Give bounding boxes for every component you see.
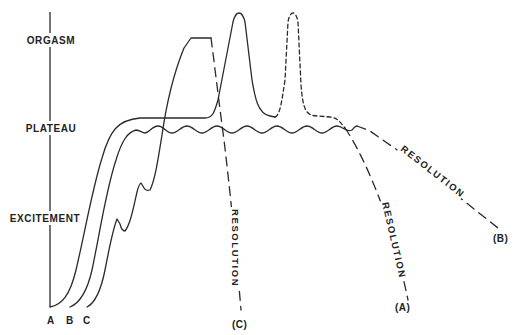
endpoint-label-a: (A) [395, 302, 410, 313]
phase-label-plateau: PLATEAU [23, 121, 79, 135]
resolution-label-b: RESOLUTION [397, 141, 468, 201]
resolution-label-c: RESOLUTION [229, 207, 242, 287]
phase-label-excitement: EXCITEMENT [10, 211, 80, 225]
curve-b-excitement-plateau [70, 126, 357, 307]
svg-text:EXCITEMENT: EXCITEMENT [10, 213, 80, 224]
resolution-label-a: RESOLUTION [379, 199, 410, 280]
pattern-label-b: B [66, 315, 74, 326]
endpoint-label-c: (C) [232, 319, 247, 330]
curve-c-excitement-orgasm [87, 38, 211, 307]
curve-a-second-orgasm [275, 13, 345, 128]
svg-text:RESOLUTION: RESOLUTION [230, 209, 241, 287]
endpoint-label-b: (B) [493, 233, 508, 244]
pattern-label-c: C [83, 315, 91, 326]
curve-b-resolution [357, 126, 498, 228]
svg-text:ORGASM: ORGASM [27, 35, 76, 46]
response-cycle-diagram: ORGASM PLATEAU EXCITEMENT A B C RESOLUTI… [0, 0, 525, 335]
phase-label-orgasm: ORGASM [23, 33, 79, 47]
svg-text:PLATEAU: PLATEAU [26, 123, 77, 134]
svg-text:RESOLUTION: RESOLUTION [399, 143, 467, 200]
pattern-label-a: A [47, 315, 55, 326]
